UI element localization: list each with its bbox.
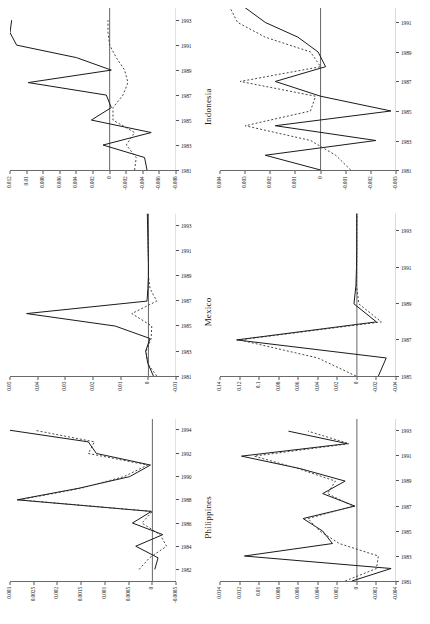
y-tick-label: -0.002	[124, 176, 129, 189]
y-tick-label: -0.02	[374, 382, 379, 393]
plot-wrap: 0.0030.00250.0020.00150.0010.00050-0.000…	[10, 419, 176, 616]
x-tick-mark	[396, 376, 399, 377]
y-tick-mark	[109, 171, 110, 174]
x-tick-mark	[396, 339, 399, 340]
plot-area-philippines-bottom	[220, 419, 396, 582]
plot-wrap: 0.050.040.030.020.010-0.01	[10, 213, 176, 410]
y-tick-mark	[396, 377, 397, 380]
y-tick-label: 0.003	[242, 176, 247, 188]
y-tick-mark	[76, 171, 77, 174]
y-tick-mark	[126, 171, 127, 174]
y-tick-label: 0.0005	[126, 587, 131, 601]
y-tick-mark	[337, 377, 338, 380]
series-line-solid	[237, 213, 387, 375]
x-tick-mark	[176, 325, 179, 326]
y-tick-mark	[26, 171, 27, 174]
series-line-solid	[10, 21, 151, 171]
y-tick-mark	[376, 582, 377, 585]
panel-title-mexico-bottom	[422, 213, 424, 410]
x-tick-mark	[176, 453, 179, 454]
y-tick-mark	[176, 377, 177, 380]
y-tick-mark	[81, 582, 82, 585]
x-tick-label: 1989	[401, 302, 411, 307]
x-tick-label: 1991	[401, 454, 411, 459]
x-tick-label: 1987	[401, 505, 411, 510]
y-tick-mark	[337, 582, 338, 585]
x-tick-mark	[176, 429, 179, 430]
x-tick-mark	[176, 546, 179, 547]
y-tick-label: 0	[107, 176, 112, 179]
y-tick-label: 0.002	[55, 587, 60, 599]
panel-title-indonesia-bottom	[422, 8, 424, 205]
y-tick-mark	[345, 171, 346, 174]
x-tick-label: 1989	[401, 480, 411, 485]
y-tick-mark	[128, 582, 129, 585]
y-axis-philippines-top: 0.0030.00250.0020.00150.0010.00050-0.000…	[10, 582, 176, 616]
x-tick-label: 1993	[181, 19, 191, 24]
y-tick-label: 0.001	[102, 587, 107, 599]
y-tick-label: 0.012	[7, 176, 12, 188]
y-tick-label: 0.01	[256, 587, 261, 596]
x-tick-mark	[176, 225, 179, 226]
x-tick-label: 1989	[181, 69, 191, 74]
x-tick-label: 1993	[401, 230, 411, 235]
series-line-dotted	[19, 430, 166, 569]
x-tick-mark	[176, 476, 179, 477]
y-tick-label: -0.001	[343, 176, 348, 189]
y-tick-mark	[356, 582, 357, 585]
x-tick-mark	[396, 170, 399, 171]
series-line-solid	[242, 431, 392, 581]
y-tick-mark	[259, 377, 260, 380]
x-tick-mark	[176, 499, 179, 500]
y-tick-mark	[148, 377, 149, 380]
x-tick-mark	[176, 70, 179, 71]
x-tick-mark	[396, 556, 399, 557]
y-tick-mark	[239, 582, 240, 585]
y-tick-mark	[176, 171, 177, 174]
y-tick-mark	[152, 582, 153, 585]
y-tick-mark	[317, 582, 318, 585]
y-tick-label: 0	[354, 587, 359, 590]
y-tick-label: -0.0005	[173, 587, 178, 603]
y-tick-mark	[37, 377, 38, 380]
series-philippines-bottom	[220, 419, 396, 581]
y-tick-mark	[93, 377, 94, 380]
x-tick-mark	[396, 581, 399, 582]
y-tick-label: -0.01	[173, 382, 178, 393]
plot-area-mexico-top	[10, 213, 176, 376]
y-tick-mark	[176, 582, 177, 585]
y-tick-mark	[43, 171, 44, 174]
series-philippines-top	[10, 419, 176, 581]
y-tick-mark	[57, 582, 58, 585]
x-tick-label: 1986	[181, 522, 191, 527]
y-tick-mark	[396, 171, 397, 174]
x-tick-label: 1993	[181, 224, 191, 229]
panel-mexico-bottom: 0.140.120.10.080.060.040.020-0.02-0.04 1…	[216, 209, 426, 414]
x-tick-mark	[396, 506, 399, 507]
x-tick-mark	[176, 250, 179, 251]
x-tick-mark	[396, 81, 399, 82]
y-tick-label: 0	[318, 176, 323, 179]
y-tick-mark	[239, 377, 240, 380]
y-tick-label: 0.04	[35, 382, 40, 391]
x-tick-label: 1987	[181, 94, 191, 99]
y-tick-mark	[104, 582, 105, 585]
y-tick-label: -0.003	[393, 176, 398, 189]
x-tick-label: 1993	[401, 429, 411, 434]
y-axis-mexico-bottom: 0.140.120.10.080.060.040.020-0.02-0.04	[220, 377, 396, 411]
y-tick-label: 0.003	[7, 587, 12, 599]
y-axis-indonesia-bottom: 0.0040.0030.0020.0010-0.001-0.002-0.003	[220, 171, 396, 205]
y-tick-label: -0.008	[173, 176, 178, 189]
y-tick-label: 0.14	[217, 382, 222, 391]
y-tick-mark	[298, 582, 299, 585]
x-tick-mark	[396, 430, 399, 431]
y-tick-label: 0.002	[90, 176, 95, 188]
x-tick-mark	[396, 141, 399, 142]
x-tick-mark	[176, 145, 179, 146]
series-line-dotted	[132, 213, 157, 375]
y-tick-label: 0.06	[296, 382, 301, 391]
y-tick-label: 0.1	[256, 382, 261, 388]
x-tick-label: 1981	[181, 169, 191, 174]
x-tick-label: 1985	[181, 119, 191, 124]
panel-title-philippines: Philippines	[202, 419, 214, 616]
